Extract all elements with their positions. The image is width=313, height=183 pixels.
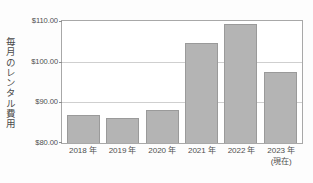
bar (146, 110, 179, 143)
y-axis-tick-label: $110.00 (18, 16, 58, 25)
y-axis-title-text: 毎月のレンタル費用 (5, 37, 15, 130)
bar (67, 115, 100, 143)
bar-slot (103, 21, 142, 143)
x-axis-tick-label-sub: (現在) (261, 157, 301, 168)
x-axis-tick-label-main: 2021 年 (188, 146, 216, 155)
plot-area (61, 20, 303, 144)
y-axis-title: 毎月のレンタル費用 (2, 18, 18, 148)
x-axis-tick-label-main: 2020 年 (148, 146, 176, 155)
bar-slot (182, 21, 221, 143)
bar-slot (64, 21, 103, 143)
x-axis-tick-label-main: 2019 年 (109, 146, 137, 155)
x-axis-tick-labels: 2018 年2019 年2020 年2021 年2022 年2023 年(現在) (61, 146, 303, 180)
x-axis-tick-label-main: 2022 年 (228, 146, 256, 155)
bar (106, 118, 139, 143)
bar (185, 43, 218, 143)
x-axis-tick-label-main: 2023 年 (267, 146, 295, 155)
y-axis-tick-label: $100.00 (18, 56, 58, 65)
bar-slot (143, 21, 182, 143)
bar-chart: 毎月のレンタル費用 $80.00$90.00$100.00$110.00 201… (0, 0, 313, 183)
x-axis-tick-label: 2019 年 (103, 146, 143, 180)
x-axis-tick-label: 2023 年(現在) (261, 146, 301, 180)
x-axis-tick-label: 2018 年 (63, 146, 103, 180)
y-axis-tick-label: $90.00 (18, 97, 58, 106)
bar-slot (221, 21, 260, 143)
bar (264, 72, 297, 143)
y-axis-tick-labels: $80.00$90.00$100.00$110.00 (18, 0, 58, 183)
bar (224, 24, 257, 143)
x-axis-tick-label-main: 2018 年 (69, 146, 97, 155)
bar-slot (261, 21, 300, 143)
bars-container (62, 21, 302, 143)
x-axis-tick-label: 2021 年 (182, 146, 222, 180)
y-axis-tick-label: $80.00 (18, 138, 58, 147)
x-axis-tick-label: 2022 年 (222, 146, 262, 180)
x-axis-tick-label: 2020 年 (142, 146, 182, 180)
